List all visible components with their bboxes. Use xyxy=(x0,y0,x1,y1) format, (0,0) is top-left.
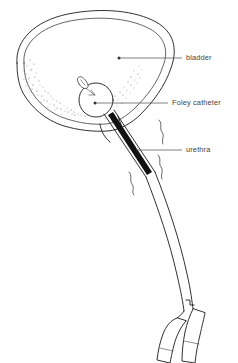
anatomy-illustration: bladder Foley catheter urethra xyxy=(0,0,238,363)
foley-catheter-diagram: bladder Foley catheter urethra xyxy=(0,0,238,363)
tissue-squiggle-right-upper xyxy=(159,120,163,144)
label-urethra-group[interactable]: urethra xyxy=(136,145,211,154)
inflation-port-body xyxy=(182,309,205,363)
bladder-organ xyxy=(17,11,174,142)
bladder-leader-dot xyxy=(118,57,121,60)
label-bladder: bladder xyxy=(186,53,212,62)
tissue-squiggle-right-lower xyxy=(158,155,162,179)
inflation-port xyxy=(182,309,205,363)
tube-wall-left xyxy=(146,177,184,311)
tissue-squiggle-left xyxy=(129,172,134,195)
label-foley-catheter: Foley catheter xyxy=(172,98,221,107)
tube-bifurcation xyxy=(177,311,184,318)
label-urethra: urethra xyxy=(186,145,211,154)
tube-wall-right xyxy=(155,172,193,309)
drainage-tube xyxy=(146,172,205,363)
foley-catheter-leader-dot xyxy=(94,102,97,105)
